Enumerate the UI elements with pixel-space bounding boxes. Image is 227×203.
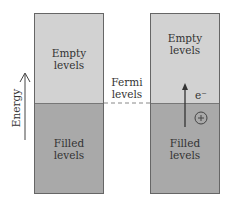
electron-excitation-arrow-icon (182, 83, 188, 127)
energy-arrow-icon (20, 73, 30, 140)
hole-icon (195, 112, 207, 124)
diagram-overlay (0, 0, 227, 203)
